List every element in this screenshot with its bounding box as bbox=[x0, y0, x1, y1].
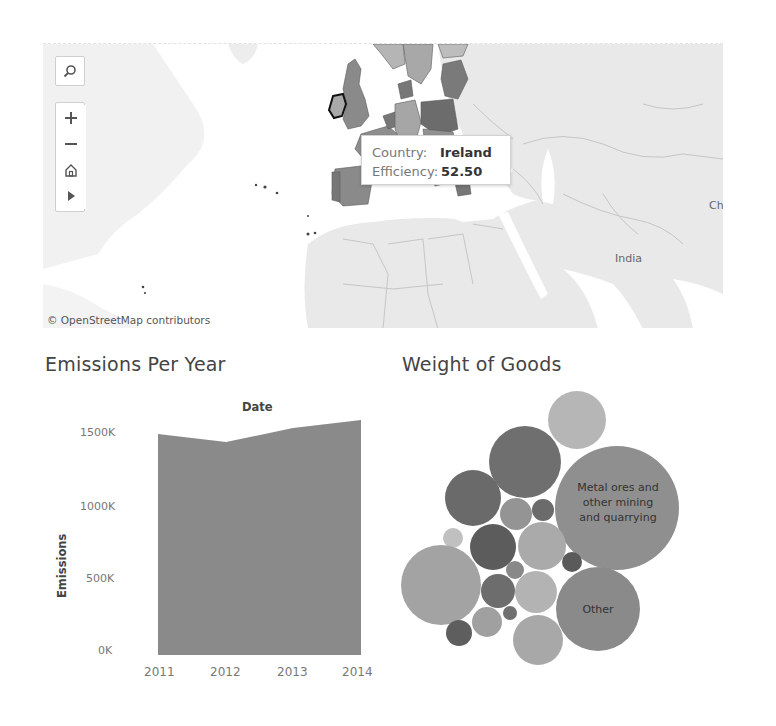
y-tick-1500k: 1500K bbox=[80, 426, 115, 439]
country-portugal bbox=[332, 172, 340, 202]
bubble[interactable] bbox=[532, 499, 554, 521]
country-denmark bbox=[398, 80, 413, 99]
map-toolbar bbox=[55, 56, 85, 212]
tooltip-efficiency-value: 52.50 bbox=[441, 162, 482, 181]
map-search-button[interactable] bbox=[55, 56, 85, 86]
goods-bubbles[interactable] bbox=[395, 380, 715, 675]
x-tick-2013: 2013 bbox=[277, 665, 308, 679]
map-attribution[interactable]: © OpenStreetMap contributors bbox=[47, 314, 210, 326]
country-ireland[interactable] bbox=[329, 94, 346, 118]
bubble[interactable] bbox=[470, 524, 516, 570]
bubble[interactable] bbox=[489, 426, 561, 498]
plus-icon bbox=[65, 112, 77, 124]
tooltip-country-value: Ireland bbox=[440, 143, 492, 162]
choropleth-map[interactable]: Country: Ireland Efficiency: 52.50 India… bbox=[43, 43, 723, 328]
emissions-area[interactable] bbox=[158, 420, 363, 660]
play-arrow-icon bbox=[66, 190, 76, 202]
pan-mode-button[interactable] bbox=[56, 183, 86, 209]
label-line: Metal ores and bbox=[563, 480, 673, 495]
bubble[interactable] bbox=[472, 607, 502, 637]
bubble[interactable] bbox=[445, 470, 501, 526]
tooltip-efficiency-row: Efficiency: 52.50 bbox=[372, 162, 500, 181]
emissions-title: Emissions Per Year bbox=[45, 353, 226, 375]
tooltip-country-label: Country: bbox=[372, 143, 440, 162]
label-line: other mining bbox=[563, 495, 673, 510]
y-tick-500k: 500K bbox=[86, 572, 114, 585]
map-tooltip: Country: Ireland Efficiency: 52.50 bbox=[361, 135, 511, 185]
bubble-label-metal-ores: Metal ores and other mining and quarryin… bbox=[563, 480, 673, 525]
goods-bubble-chart[interactable]: Metal ores and other mining and quarryin… bbox=[395, 380, 715, 675]
tooltip-country-row: Country: Ireland bbox=[372, 143, 500, 162]
emissions-area-chart[interactable]: Date Emissions 1500K 1000K 500K 0K 2011 … bbox=[40, 380, 380, 680]
zoom-out-button[interactable] bbox=[56, 131, 86, 157]
map-canvas[interactable] bbox=[43, 44, 723, 328]
bubble[interactable] bbox=[562, 552, 582, 572]
bubble-label-other: Other bbox=[568, 602, 628, 617]
goods-title: Weight of Goods bbox=[402, 353, 562, 375]
bubble[interactable] bbox=[503, 606, 517, 620]
y-axis-title: Emissions bbox=[55, 534, 69, 598]
home-button[interactable] bbox=[56, 157, 86, 183]
map-label-china: Ch bbox=[709, 199, 723, 212]
bubble[interactable] bbox=[500, 498, 532, 530]
country-united-kingdom bbox=[343, 59, 369, 129]
land-arctic bbox=[228, 44, 258, 64]
label-line: and quarrying bbox=[563, 510, 673, 525]
search-icon bbox=[63, 64, 77, 78]
x-tick-2012: 2012 bbox=[210, 665, 241, 679]
x-tick-2011: 2011 bbox=[144, 665, 175, 679]
atlantic-islands bbox=[142, 184, 317, 294]
bubble[interactable] bbox=[513, 615, 563, 665]
bubble[interactable] bbox=[518, 522, 566, 570]
x-axis-title: Date bbox=[242, 400, 273, 414]
bubble[interactable] bbox=[443, 528, 463, 548]
bubble[interactable] bbox=[515, 571, 557, 613]
home-icon bbox=[64, 163, 78, 177]
tooltip-efficiency-label: Efficiency: bbox=[372, 162, 438, 181]
minus-icon bbox=[65, 142, 77, 146]
map-label-india: India bbox=[615, 252, 642, 265]
bubble[interactable] bbox=[401, 545, 481, 625]
zoom-in-button[interactable] bbox=[56, 105, 86, 131]
bubble-group bbox=[401, 391, 679, 665]
x-tick-2014: 2014 bbox=[342, 665, 373, 679]
bubble[interactable] bbox=[481, 574, 515, 608]
country-sweden bbox=[403, 44, 433, 84]
map-navigation bbox=[55, 102, 85, 212]
country-norway bbox=[373, 44, 405, 69]
y-tick-0k: 0K bbox=[98, 644, 112, 657]
bubble[interactable] bbox=[446, 620, 472, 646]
y-tick-1000k: 1000K bbox=[80, 500, 115, 513]
emissions-area-fill bbox=[158, 420, 361, 655]
bubble[interactable] bbox=[548, 391, 606, 449]
bubble[interactable] bbox=[506, 561, 524, 579]
